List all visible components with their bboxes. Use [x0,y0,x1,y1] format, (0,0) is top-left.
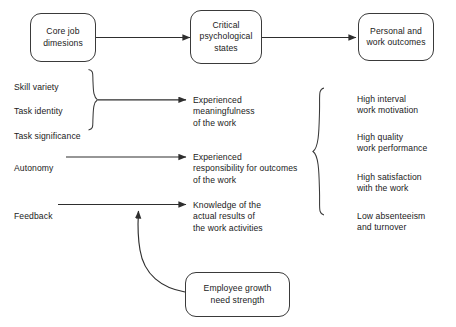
label-autonomy: Autonomy [14,151,54,174]
label-feedback: Feedback [14,199,53,222]
label-skill-variety: Skill variety [14,70,59,93]
node-personal-work-outcomes[interactable]: Personal and work outcomes [358,13,434,61]
arrow-moderator-to-feedback [138,211,185,292]
brace-skill-group [89,70,98,131]
label-low-absenteeism-turnover: Low absenteeism and turnover [357,199,425,234]
node-core-job-dimensions[interactable]: Core job dimesions [30,13,96,62]
label-high-internal-work-motivation: High interval work motivation [357,82,418,117]
label-task-significance: Task significance [14,119,81,142]
label-high-satisfaction-with-work: High satisfaction with the work [357,160,422,195]
label-experienced-responsibility: Experienced responsibility for outcomes … [193,140,297,186]
node-employee-growth-need-strength-label: Employee growth need strength [204,283,272,306]
diagram-canvas: Core job dimesions Critical psychologica… [0,0,456,327]
node-employee-growth-need-strength[interactable]: Employee growth need strength [185,272,290,317]
label-high-quality-work-performance: High quality work performance [357,120,427,155]
node-core-job-dimensions-label: Core job dimesions [43,26,83,49]
brace-outcomes-group [313,88,324,215]
node-critical-psychological-states-label: Critical psychological states [200,20,253,55]
node-critical-psychological-states[interactable]: Critical psychological states [190,10,262,64]
label-experienced-meaningfulness: Experienced meaningfulness of the work [193,83,255,129]
node-personal-work-outcomes-label: Personal and work outcomes [366,26,425,49]
label-knowledge-of-results: Knowledge of the actual results of the w… [193,188,263,234]
label-task-identity: Task identity [14,94,63,117]
